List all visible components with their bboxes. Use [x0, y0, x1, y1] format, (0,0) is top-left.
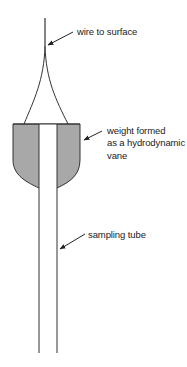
sampler-diagram	[0, 0, 187, 367]
weight-label-line2: as a hydrodynamic	[107, 137, 185, 149]
tube-label: sampling tube	[88, 229, 146, 241]
wire-arrow	[48, 32, 73, 45]
bridle-left	[24, 46, 45, 124]
weight-label-line3: vane	[107, 150, 127, 162]
weight-label-line1: weight formed	[107, 125, 165, 137]
bridle-right	[45, 46, 68, 124]
sampling-tube	[39, 124, 57, 353]
wire-label: wire to surface	[77, 26, 137, 38]
weight-arrow	[84, 131, 102, 140]
tube-arrow	[60, 234, 85, 249]
